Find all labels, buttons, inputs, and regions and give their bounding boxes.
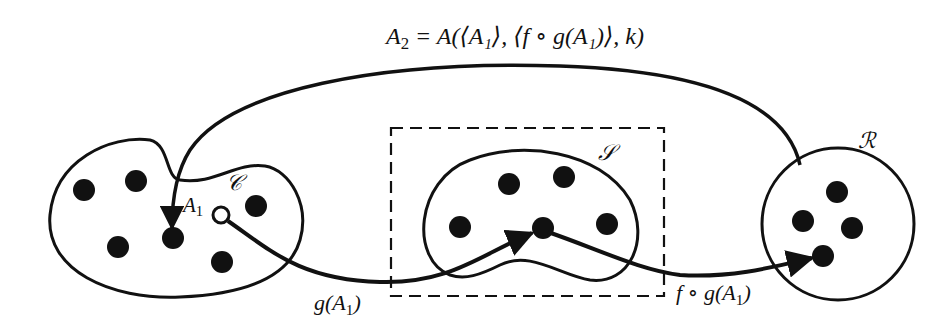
set-c-boundary [50,139,303,297]
set-r-boundary [762,148,914,300]
formula-lhs-sub: 2 [401,34,409,53]
point-a1 [213,207,229,223]
edge-fg-label: f ∘ g(A1) [676,280,751,309]
formula-rhs: = A(⟨A₁⟩, ⟨f ∘ g(A₁)⟩, k) [409,23,644,49]
formula-lhs: A [386,23,401,49]
point-a1-label: A1 [183,193,203,220]
g-text: g(A [314,290,346,315]
set-s-label: 𝒮 [598,140,615,166]
set-s-dots [449,166,618,239]
edge-fg [548,232,812,276]
edge-g-label: g(A1) [314,290,361,319]
set-r-dots [792,181,863,267]
a1-text: A [183,193,196,217]
set-c-label: 𝒞 [226,170,242,196]
formula-label: A2 = A(⟨A₁⟩, ⟨f ∘ g(A₁)⟩, k) [386,22,644,54]
g-close: ) [353,290,360,315]
fg-close: ) [743,280,750,305]
fg-text: f ∘ g(A [676,280,736,305]
set-r-label: ℛ [858,128,876,154]
a1-sub: 1 [196,203,203,219]
